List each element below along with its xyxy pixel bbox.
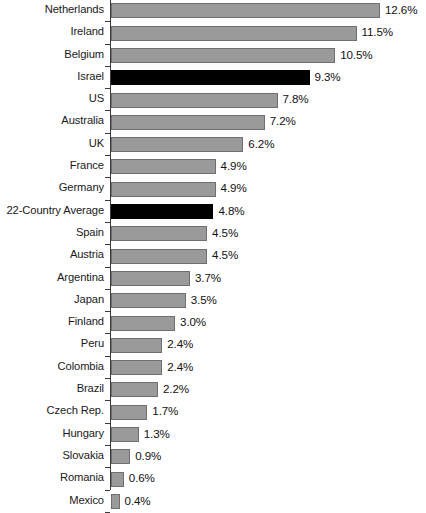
category-label: Slovakia — [0, 449, 104, 462]
bar-row: France4.9% — [0, 156, 426, 178]
bar — [111, 70, 310, 85]
category-label: Mexico — [0, 494, 104, 507]
bar — [111, 182, 216, 197]
bar-row: Colombia2.4% — [0, 357, 426, 379]
bar-value-label: 7.8% — [283, 92, 309, 106]
bar — [111, 48, 335, 63]
bar — [111, 159, 216, 174]
bar-value-label: 3.0% — [180, 315, 206, 329]
category-label: Belgium — [0, 48, 104, 61]
bar-row: Finland3.0% — [0, 312, 426, 334]
bar — [111, 293, 186, 308]
bar — [111, 226, 207, 241]
bar — [111, 93, 278, 108]
bar-row: Australia7.2% — [0, 111, 426, 133]
bar — [111, 115, 265, 130]
bar-value-label: 4.9% — [221, 159, 247, 173]
bar — [111, 3, 380, 18]
bar-value-label: 11.5% — [362, 25, 394, 39]
bar-value-label: 4.9% — [221, 181, 247, 195]
bar-value-label: 1.7% — [152, 404, 178, 418]
bar-row: Belgium10.5% — [0, 45, 426, 67]
bar-value-label: 2.4% — [167, 360, 193, 374]
bar — [111, 271, 190, 286]
bar-rows-container: Netherlands12.6%Ireland11.5%Belgium10.5%… — [0, 0, 426, 513]
bar — [111, 449, 130, 464]
category-label: Peru — [0, 337, 104, 350]
bar — [111, 137, 243, 152]
category-label: Brazil — [0, 382, 104, 395]
category-label: Argentina — [0, 271, 104, 284]
bar — [111, 249, 207, 264]
bar-row: Romania0.6% — [0, 468, 426, 490]
bar-row: Argentina3.7% — [0, 268, 426, 290]
bar-value-label: 0.4% — [125, 494, 151, 508]
bar-row: Ireland11.5% — [0, 22, 426, 44]
bar-row: Czech Rep.1.7% — [0, 401, 426, 423]
bar — [111, 427, 139, 442]
category-label: Hungary — [0, 427, 104, 440]
bar-row: Netherlands12.6% — [0, 0, 426, 22]
bar-value-label: 3.5% — [191, 293, 217, 307]
bar-value-label: 4.5% — [212, 248, 238, 262]
bar-row: UK6.2% — [0, 134, 426, 156]
bar-row: Israel9.3% — [0, 67, 426, 89]
bar-row: US7.8% — [0, 89, 426, 111]
category-label: Czech Rep. — [0, 404, 104, 417]
category-label: UK — [0, 137, 104, 150]
bar-row: Germany4.9% — [0, 178, 426, 200]
bar — [111, 26, 357, 41]
category-label: France — [0, 159, 104, 172]
bar-row: Austria4.5% — [0, 245, 426, 267]
bar-value-label: 12.6% — [385, 3, 417, 17]
bar — [111, 338, 162, 353]
bar-value-label: 4.5% — [212, 226, 238, 240]
category-label: Australia — [0, 114, 104, 127]
bar-value-label: 6.2% — [248, 137, 274, 151]
bar-value-label: 3.7% — [195, 271, 221, 285]
bar — [111, 382, 158, 397]
category-label: Spain — [0, 226, 104, 239]
category-label: Netherlands — [0, 3, 104, 16]
bar-value-label: 4.8% — [218, 204, 244, 218]
bar-row: Hungary1.3% — [0, 424, 426, 446]
bar-row: Brazil2.2% — [0, 379, 426, 401]
bar-value-label: 10.5% — [340, 48, 372, 62]
category-label: 22-Country Average — [0, 204, 104, 217]
bar — [111, 316, 175, 331]
category-label: US — [0, 92, 104, 105]
bar — [111, 472, 124, 487]
bar-row: Peru2.4% — [0, 334, 426, 356]
category-label: Germany — [0, 181, 104, 194]
bar-value-label: 2.2% — [163, 382, 189, 396]
category-label: Austria — [0, 248, 104, 261]
bar — [111, 360, 162, 375]
category-label: Romania — [0, 471, 104, 484]
bar-row: Japan3.5% — [0, 290, 426, 312]
bar — [111, 405, 147, 420]
bar-value-label: 2.4% — [167, 337, 193, 351]
bar-row: Mexico0.4% — [0, 491, 426, 513]
bar-value-label: 1.3% — [144, 427, 170, 441]
category-label: Japan — [0, 293, 104, 306]
bar-value-label: 0.6% — [129, 471, 155, 485]
bar — [111, 494, 120, 509]
bar-row: Spain4.5% — [0, 223, 426, 245]
bar-value-label: 9.3% — [315, 70, 341, 84]
bar-value-label: 7.2% — [270, 114, 296, 128]
category-label: Ireland — [0, 25, 104, 38]
bar-row: Slovakia0.9% — [0, 446, 426, 468]
bar — [111, 204, 213, 219]
category-label: Finland — [0, 315, 104, 328]
bar-value-label: 0.9% — [135, 449, 161, 463]
bar-row: 22-Country Average4.8% — [0, 201, 426, 223]
category-label: Israel — [0, 70, 104, 83]
category-label: Colombia — [0, 360, 104, 373]
